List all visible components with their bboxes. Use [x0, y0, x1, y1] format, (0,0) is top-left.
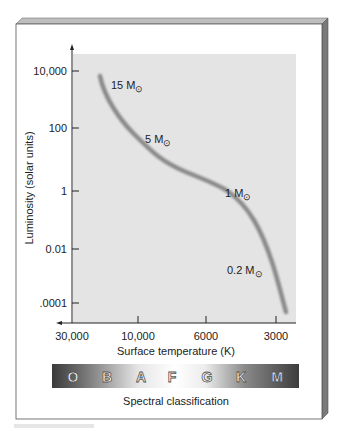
y-tick-label: 0.01 — [46, 243, 67, 255]
spectral-class-m: M — [271, 369, 283, 385]
frame-bevel-top — [16, 18, 328, 24]
caption-fragment — [14, 424, 94, 428]
spectral-classification-label: Spectral classification — [123, 395, 229, 407]
x-tick-label: 10,000 — [121, 330, 155, 342]
spectral-class-o: O — [68, 369, 79, 385]
x-tick-label: 30,000 — [55, 330, 89, 342]
y-axis-label: Luminosity (solar units) — [23, 131, 35, 244]
x-axis-label: Surface temperature (K) — [117, 345, 235, 357]
spectral-class-k: K — [236, 369, 246, 385]
y-tick-label: .0001 — [39, 297, 67, 309]
y-tick-label: 100 — [49, 122, 67, 134]
spectral-class-f: F — [168, 369, 177, 385]
hr-diagram: 10,000 100 1 0.01 .0001 30,000 10,000 60… — [0, 0, 338, 431]
frame-bevel-side — [322, 18, 328, 419]
x-tick-label: 3000 — [264, 330, 288, 342]
spectral-class-a: A — [136, 369, 146, 385]
spectral-class-b: B — [102, 369, 112, 385]
spectral-bar: O B A F G K M — [52, 364, 299, 388]
y-tick-label: 10,000 — [33, 65, 67, 77]
x-tick-label: 6000 — [194, 330, 218, 342]
y-tick-label: 1 — [61, 185, 67, 197]
spectral-class-g: G — [202, 369, 213, 385]
